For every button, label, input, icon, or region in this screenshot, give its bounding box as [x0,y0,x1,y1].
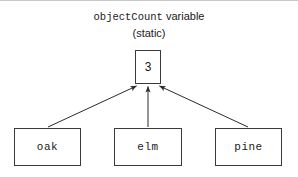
object-count-value: 3 [145,60,152,74]
static-variable-diagram: objectCount variable (static) 3 oak elm … [0,0,298,177]
instance-box-oak: oak [14,128,81,166]
object-count-box: 3 [135,50,161,84]
instance-label-elm: elm [137,141,158,153]
diagram-title-line-2: (static) [0,26,298,41]
diagram-title-variable-name: objectCount [94,11,163,23]
diagram-title-variable-word: variable [163,10,205,22]
instance-box-elm: elm [114,128,182,166]
top-divider-rule [0,0,298,1]
diagram-title-line-1: objectCount variable [0,9,298,25]
instance-label-pine: pine [234,141,262,153]
instance-box-pine: pine [215,128,282,166]
edge-pine-to-object-count [160,86,249,127]
diagram-title: objectCount variable (static) [0,9,298,41]
edge-oak-to-object-count [48,86,137,127]
instance-label-oak: oak [37,141,58,153]
